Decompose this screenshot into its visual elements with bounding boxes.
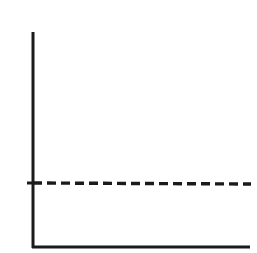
chart-figure: Line chart with a horizontal dashed line…: [0, 0, 257, 253]
plot-background: [0, 0, 257, 253]
plot-area: [0, 0, 257, 253]
